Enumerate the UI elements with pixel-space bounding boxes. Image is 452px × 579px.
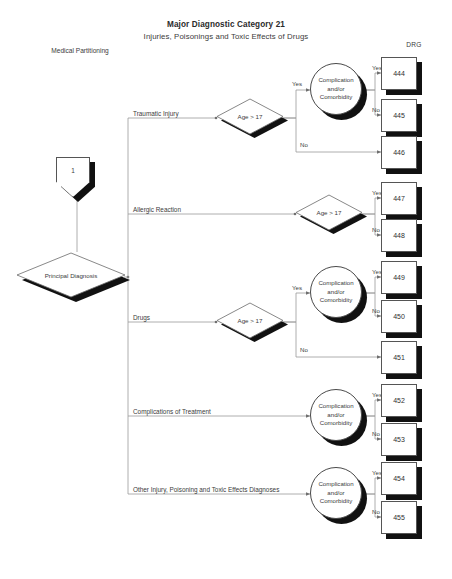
- drg-box-453[interactable]: 453: [381, 423, 422, 461]
- drg-box-451[interactable]: 451: [381, 341, 422, 379]
- edge-label-no-age-drugs: No: [300, 346, 308, 354]
- cc-node-traumatic-label: Complication and/or Comorbidity: [311, 76, 361, 102]
- drg-box-451-code: 451: [393, 354, 405, 361]
- diagram-canvas: Major Diagnostic Category 21 Injuries, P…: [0, 0, 452, 579]
- start-node-label: 1: [71, 167, 75, 174]
- edge-label-no-cc-other: No: [372, 508, 380, 516]
- drg-box-451-body: 451: [381, 341, 417, 374]
- cc-node-traumatic[interactable]: Complication and/or Comorbidity: [310, 63, 368, 119]
- drg-box-452-code: 452: [393, 397, 405, 404]
- edge-label-no-age-allergic: No: [372, 226, 380, 234]
- cc-node-other-body: Complication and/or Comorbidity: [310, 467, 362, 519]
- drg-box-444[interactable]: 444: [381, 57, 422, 95]
- drg-box-450[interactable]: 450: [381, 300, 422, 338]
- drg-box-448[interactable]: 448: [381, 219, 422, 257]
- drg-box-452-body: 452: [381, 384, 417, 417]
- edge-label-no-cc-traumatic: No: [372, 106, 380, 114]
- drg-box-446-body: 446: [381, 136, 417, 169]
- branch-label-drugs: Drugs: [133, 314, 150, 322]
- drg-box-448-code: 448: [393, 232, 405, 239]
- cc-node-drugs-label: Complication and/or Comorbidity: [311, 279, 361, 305]
- cc-node-drugs-body: Complication and/or Comorbidity: [310, 266, 362, 318]
- edge-label-yes-age-drugs: Yes: [292, 284, 302, 292]
- drg-box-454[interactable]: 454: [381, 462, 422, 500]
- edge-label-yes-age-traumatic: Yes: [292, 80, 302, 88]
- medical-partitioning-label: Medical Partitioning: [40, 46, 120, 56]
- edge-label-no-cc-complications: No: [372, 430, 380, 438]
- drg-box-444-code: 444: [393, 70, 405, 77]
- age-decision-allergic[interactable]: Age > 17: [295, 194, 368, 236]
- cc-node-complications-label: Complication and/or Comorbidity: [311, 402, 361, 428]
- page-subtitle: Injuries, Poisonings and Toxic Effects o…: [0, 32, 452, 42]
- drg-box-446[interactable]: 446: [381, 136, 422, 174]
- drg-column-header: DRG: [393, 41, 435, 49]
- drg-box-450-body: 450: [381, 300, 417, 333]
- drg-box-455-body: 455: [381, 501, 417, 534]
- edge-label-no-age-traumatic: No: [300, 141, 308, 149]
- branch-label-complications-of-treatment: Complications of Treatment: [133, 408, 211, 416]
- drg-box-445[interactable]: 445: [381, 99, 422, 137]
- drg-box-447-body: 447: [381, 182, 417, 215]
- cc-node-other[interactable]: Complication and/or Comorbidity: [310, 467, 368, 523]
- drg-box-445-code: 445: [393, 112, 405, 119]
- drg-box-449[interactable]: 449: [381, 261, 422, 299]
- drg-box-447-code: 447: [393, 195, 405, 202]
- branch-label-other-injury-poisoning: Other Injury, Poisoning and Toxic Effect…: [133, 486, 279, 494]
- drg-box-449-code: 449: [393, 274, 405, 281]
- branch-label-allergic-reaction: Allergic Reaction: [133, 206, 181, 214]
- age-decision-drugs[interactable]: Age > 17: [216, 302, 289, 344]
- drg-box-445-body: 445: [381, 99, 417, 132]
- drg-box-454-body: 454: [381, 462, 417, 495]
- drg-box-447[interactable]: 447: [381, 182, 422, 220]
- cc-node-traumatic-body: Complication and/or Comorbidity: [310, 63, 362, 115]
- age-decision-traumatic[interactable]: Age > 17: [216, 98, 289, 140]
- drg-box-449-body: 449: [381, 261, 417, 294]
- age-decision-drugs-label: Age > 17: [238, 317, 263, 324]
- drg-box-450-code: 450: [393, 313, 405, 320]
- drg-box-452[interactable]: 452: [381, 384, 422, 422]
- drg-box-446-code: 446: [393, 149, 405, 156]
- drg-box-448-body: 448: [381, 219, 417, 252]
- age-decision-allergic-label: Age > 17: [317, 209, 342, 216]
- drg-box-455[interactable]: 455: [381, 501, 422, 539]
- drg-box-453-code: 453: [393, 436, 405, 443]
- branch-label-traumatic-injury: Traumatic Injury: [133, 110, 179, 118]
- principal-diagnosis-label: Principal Diagnosis: [45, 272, 98, 279]
- cc-node-drugs[interactable]: Complication and/or Comorbidity: [310, 266, 368, 322]
- drg-box-455-code: 455: [393, 514, 405, 521]
- drg-box-444-body: 444: [381, 57, 417, 90]
- cc-node-other-label: Complication and/or Comorbidity: [311, 480, 361, 506]
- drg-box-454-code: 454: [393, 475, 405, 482]
- cc-node-complications-body: Complication and/or Comorbidity: [310, 389, 362, 441]
- age-decision-traumatic-label: Age > 17: [238, 113, 263, 120]
- cc-node-complications[interactable]: Complication and/or Comorbidity: [310, 389, 368, 445]
- drg-box-453-body: 453: [381, 423, 417, 456]
- page-title: Major Diagnostic Category 21: [0, 20, 452, 30]
- edge-label-no-cc-drugs: No: [372, 307, 380, 315]
- principal-diagnosis-node[interactable]: Principal Diagnosis: [16, 252, 132, 304]
- start-node[interactable]: 1: [56, 157, 97, 204]
